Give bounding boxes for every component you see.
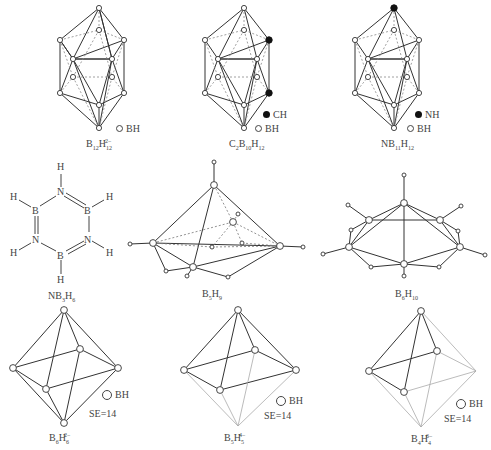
panel-nb3h6: H N H B B H N N H H B H NB3H6 (0, 150, 120, 300)
skeletal-electron-count: SE=14 (89, 408, 116, 419)
formula-element: B (395, 288, 402, 299)
b4h4-arachno-octahedron-diagram (330, 300, 491, 450)
panel-b4h4: BH SE=14 B4H46− (330, 300, 491, 450)
formula-element: B (411, 433, 418, 444)
formula-label: B6H62− (49, 432, 70, 445)
legend-bh-label: BH (417, 123, 431, 134)
b6h10-pentagonal-pyramid-diagram (320, 160, 491, 300)
legend-bh: BH (276, 395, 303, 406)
formula-element: B (202, 288, 209, 299)
atom-b: B (84, 205, 91, 216)
ch-vertex-icon (263, 111, 270, 118)
atom-n: N (57, 186, 64, 197)
atom-n: N (32, 234, 39, 245)
legend-bh: BH (407, 123, 431, 134)
formula-charge: 6− (426, 433, 432, 439)
legend-bh-label: BH (115, 389, 129, 400)
formula-label: B5H54− (224, 432, 245, 445)
skeletal-electron-count: SE=14 (444, 413, 471, 424)
formula-element: B (388, 138, 395, 149)
bh-vertex-icon (116, 125, 123, 132)
nh-vertex-icon (415, 111, 422, 118)
legend-bh-label: BH (289, 395, 303, 406)
formula-element: H (401, 138, 408, 149)
formula-subscript: 12 (408, 145, 414, 151)
legend-bh: BH (255, 123, 279, 134)
atom-h: H (10, 247, 17, 258)
atom-b: B (57, 250, 64, 261)
legend-ch-label: CH (273, 109, 287, 120)
bh-vertex-icon (102, 390, 112, 400)
skeletal-electron-count: SE=14 (264, 410, 291, 421)
formula-element: B (86, 138, 93, 149)
formula-label: NB11H12 (381, 138, 414, 151)
legend-nh-label: NH (425, 109, 439, 120)
atom-h: H (10, 191, 17, 202)
formula-element: H (405, 288, 412, 299)
formula-subscript: 6 (66, 439, 69, 445)
legend-bh-label: BH (469, 398, 483, 409)
formula-charge: 2− (105, 138, 111, 144)
bh-vertex-icon (255, 125, 262, 132)
formula-subscript: 5 (241, 439, 244, 445)
panel-b5h9: B5H9 (120, 150, 320, 300)
legend-nh: NH (415, 109, 439, 120)
panel-b5h5: BH SE=14 B5H54− (160, 300, 330, 450)
atom-h: H (57, 161, 64, 172)
formula-element: H (212, 288, 219, 299)
b5h5-nido-octahedron-diagram (160, 300, 330, 450)
formula-element: B (224, 432, 231, 443)
legend-bh-label: BH (126, 123, 140, 134)
formula-element: C (229, 138, 236, 149)
atom-h: H (57, 274, 64, 285)
panel-nb11h12: NH BH NB11H12 (295, 0, 491, 150)
bh-vertex-icon (407, 125, 414, 132)
b5h9-square-pyramid-diagram (120, 150, 320, 300)
panel-b6h6: BH SE=14 B6H62− (0, 300, 165, 450)
atom-b: B (32, 205, 39, 216)
b6h6-octahedron-diagram (0, 300, 165, 450)
legend-ch: CH (263, 109, 287, 120)
legend-bh: BH (116, 123, 140, 134)
panel-b6h10: B6H10 (320, 160, 491, 300)
panel-c2b10h12: CH BH C2B10H12 (145, 0, 315, 150)
formula-subscript: 4 (428, 440, 431, 446)
bh-vertex-icon (276, 396, 286, 406)
legend-bh-label: BH (265, 123, 279, 134)
bh-vertex-icon (456, 399, 466, 409)
atom-n: N (84, 234, 91, 245)
atom-h: H (106, 191, 113, 202)
formula-label: B4H46− (411, 433, 432, 446)
formula-charge: 4− (239, 432, 245, 438)
icosahedron-nb11h12-diagram (295, 0, 491, 150)
formula-charge: 2− (64, 432, 70, 438)
legend-bh: BH (102, 389, 129, 400)
formula-element: B (49, 432, 56, 443)
atom-h: H (106, 247, 113, 258)
icosahedron-c2b10h12-diagram (145, 0, 315, 150)
legend-bh: BH (456, 398, 483, 409)
formula-element: H (251, 138, 258, 149)
